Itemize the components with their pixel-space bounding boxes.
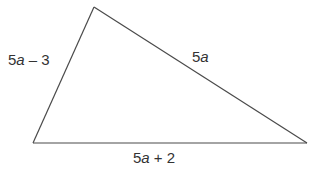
label-side-right: 5a — [192, 49, 209, 64]
label-left-var: a — [16, 51, 24, 68]
side-left — [33, 7, 94, 143]
label-side-left: 5a – 3 — [8, 52, 50, 67]
label-bottom-var: a — [141, 149, 149, 166]
label-right-var: a — [200, 48, 208, 65]
triangle-diagram — [0, 0, 324, 171]
label-side-bottom: 5a + 2 — [133, 150, 175, 165]
label-left-rest: – 3 — [25, 51, 50, 68]
side-right — [94, 7, 307, 143]
label-bottom-rest: + 2 — [150, 149, 175, 166]
